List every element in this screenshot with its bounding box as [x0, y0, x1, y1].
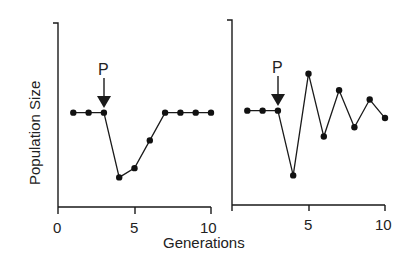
data-point: [290, 172, 296, 178]
right-marker-arrowhead-icon: [271, 94, 285, 106]
right-series: [244, 70, 388, 178]
right-tick-10: 10: [375, 216, 392, 233]
data-point: [116, 174, 122, 180]
data-point: [382, 115, 388, 121]
left-panel: P 0 5 10: [53, 23, 217, 236]
left-marker-label: P: [98, 61, 109, 78]
x-axis-title: Generations: [163, 234, 245, 251]
data-point: [336, 87, 342, 93]
data-point: [70, 109, 76, 115]
data-point: [85, 109, 91, 115]
left-x-axis: [58, 207, 211, 214]
data-point: [351, 124, 357, 130]
data-point: [305, 70, 311, 76]
data-point: [147, 137, 153, 143]
data-point: [275, 107, 281, 113]
data-point: [162, 109, 168, 115]
data-point: [321, 133, 327, 139]
series-line: [247, 74, 385, 176]
left-tick-5: 5: [130, 219, 138, 236]
left-marker-arrowhead-icon: [97, 96, 111, 108]
data-point: [177, 109, 183, 115]
series-line: [73, 113, 211, 178]
left-y-axis: [53, 23, 58, 207]
y-axis-title: Population Size: [26, 81, 43, 185]
chart-figure: P 0 5 10 P 5 10 Population Size Generati…: [0, 0, 411, 263]
data-point: [131, 165, 137, 171]
chart-canvas: P 0 5 10 P 5 10 Population Size Generati…: [0, 0, 411, 263]
data-point: [193, 109, 199, 115]
data-point: [259, 107, 265, 113]
right-tick-5: 5: [304, 216, 312, 233]
right-panel: P 5 10: [227, 20, 392, 233]
right-marker-label: P: [272, 59, 283, 76]
right-y-axis: [227, 20, 232, 205]
left-series: [70, 109, 214, 180]
data-point: [208, 109, 214, 115]
data-point: [101, 109, 107, 115]
right-x-axis: [232, 205, 385, 211]
data-point: [367, 96, 373, 102]
left-tick-0: 0: [53, 219, 61, 236]
data-point: [244, 107, 250, 113]
